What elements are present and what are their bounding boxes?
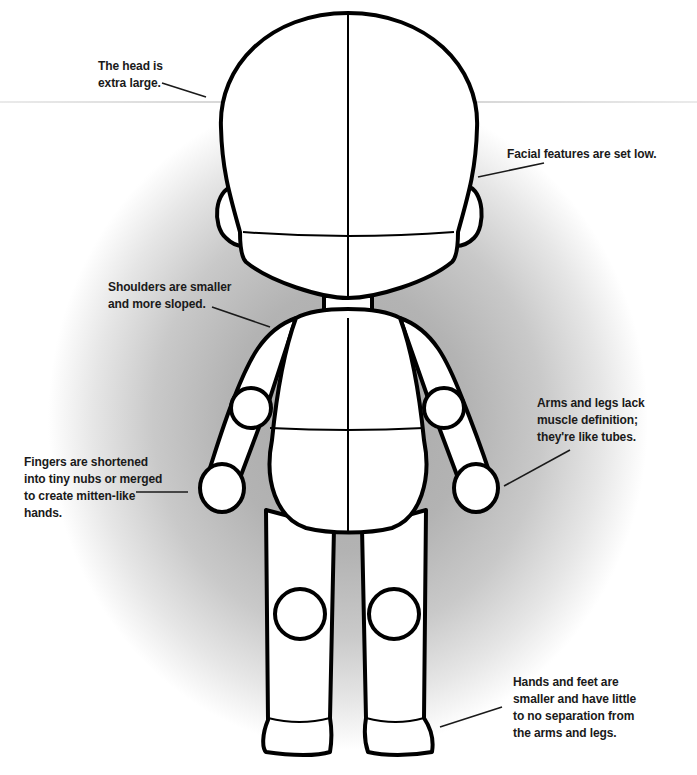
annotation-limbs: Arms and legs lack muscle definition; th… (537, 395, 645, 446)
leader-face (478, 163, 544, 177)
annotation-shoulders: Shoulders are smaller and more sloped. (108, 279, 231, 313)
leader-hands-feet (440, 707, 502, 727)
left-knee (275, 589, 325, 639)
annotation-head: The head is extra large. (98, 58, 163, 92)
annotation-face: Facial features are set low. (507, 146, 657, 163)
chibi-figure (0, 0, 697, 775)
right-knee (369, 589, 419, 639)
annotation-fingers: Fingers are shortened into tiny nubs or … (24, 454, 162, 522)
leader-head (162, 83, 206, 97)
annotation-hands-feet: Hands and feet are smaller and have litt… (513, 674, 636, 742)
right-hand (454, 464, 498, 512)
leader-limbs (504, 450, 570, 486)
left-hand (200, 464, 244, 512)
right-elbow (424, 388, 464, 428)
left-elbow (231, 388, 271, 428)
